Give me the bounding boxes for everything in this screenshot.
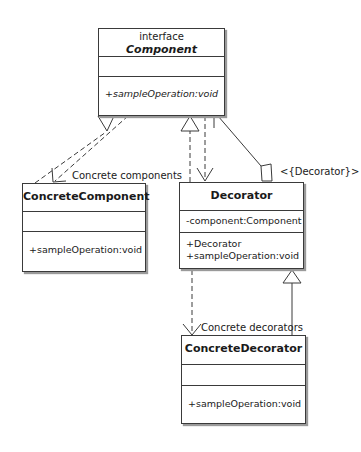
class-name: ConcreteComponent xyxy=(23,190,145,204)
label-decorator-role: <{Decorator}> xyxy=(280,166,359,177)
class-name: ConcreteDecorator xyxy=(182,342,305,356)
operations-section: +sampleOperation:void xyxy=(99,77,224,115)
class-header: ConcreteDecorator xyxy=(182,336,305,365)
class-name: Decorator xyxy=(180,189,303,203)
class-name: Component xyxy=(99,43,224,57)
label-concrete-decorators: Concrete decorators xyxy=(201,322,303,333)
class-header: Decorator xyxy=(180,183,303,211)
attribute: -component:Component xyxy=(180,215,303,227)
operations-section: +Decorator +sampleOperation:void xyxy=(180,233,303,268)
attributes-section xyxy=(23,212,145,232)
operations-section: +sampleOperation:void xyxy=(23,232,145,271)
class-decorator[interactable]: Decorator -component:Component +Decorato… xyxy=(179,182,304,269)
realization-decorator xyxy=(181,116,199,182)
dependency-concrete-decorators xyxy=(183,270,201,335)
attributes-section xyxy=(99,57,224,77)
class-concrete-decorator[interactable]: ConcreteDecorator +sampleOperation:void xyxy=(181,335,306,424)
operation: +sampleOperation:void xyxy=(23,244,145,256)
aggregation-decorator-component xyxy=(214,116,272,181)
attributes-section xyxy=(182,365,305,386)
stereotype-label: interface xyxy=(99,29,224,43)
operation: +sampleOperation:void xyxy=(180,250,303,262)
operation: +sampleOperation:void xyxy=(182,398,305,410)
class-component[interactable]: interface Component +sampleOperation:voi… xyxy=(98,28,225,116)
operation: +sampleOperation:void xyxy=(99,88,224,100)
class-concrete-component[interactable]: ConcreteComponent +sampleOperation:void xyxy=(22,183,146,272)
operation: +Decorator xyxy=(180,238,303,250)
class-header: interface Component xyxy=(99,29,224,57)
attributes-section: -component:Component xyxy=(180,211,303,233)
class-header: ConcreteComponent xyxy=(23,184,145,212)
dependency-decorator xyxy=(197,116,213,181)
label-concrete-components: Concrete components xyxy=(72,170,182,181)
uml-diagram: interface Component +sampleOperation:voi… xyxy=(0,0,361,452)
operations-section: +sampleOperation:void xyxy=(182,386,305,423)
